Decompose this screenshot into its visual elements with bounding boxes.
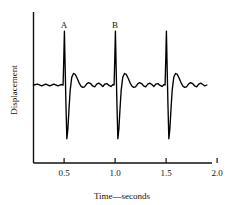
x-axis-ticks <box>64 158 217 163</box>
pulse-label-b: B <box>112 20 118 30</box>
displacement-trace <box>34 31 207 139</box>
chart-svg: 0.51.01.52.0 AB Time—seconds Displacemen… <box>0 0 233 205</box>
x-axis-tick-labels: 0.51.01.52.0 <box>58 168 223 178</box>
x-axis-tick-label: 0.5 <box>58 168 70 178</box>
data-series-group <box>34 31 207 139</box>
pulse-annotations: AB <box>61 20 118 30</box>
x-axis-title: Time—seconds <box>94 191 151 201</box>
x-axis-tick-label: 1.0 <box>109 168 121 178</box>
y-axis-title: Displacement <box>9 65 19 115</box>
x-axis-tick-label: 1.5 <box>160 168 172 178</box>
seismogram-chart: 0.51.01.52.0 AB Time—seconds Displacemen… <box>0 0 233 205</box>
x-axis-tick-label: 2.0 <box>211 168 223 178</box>
pulse-label-a: A <box>61 20 68 30</box>
